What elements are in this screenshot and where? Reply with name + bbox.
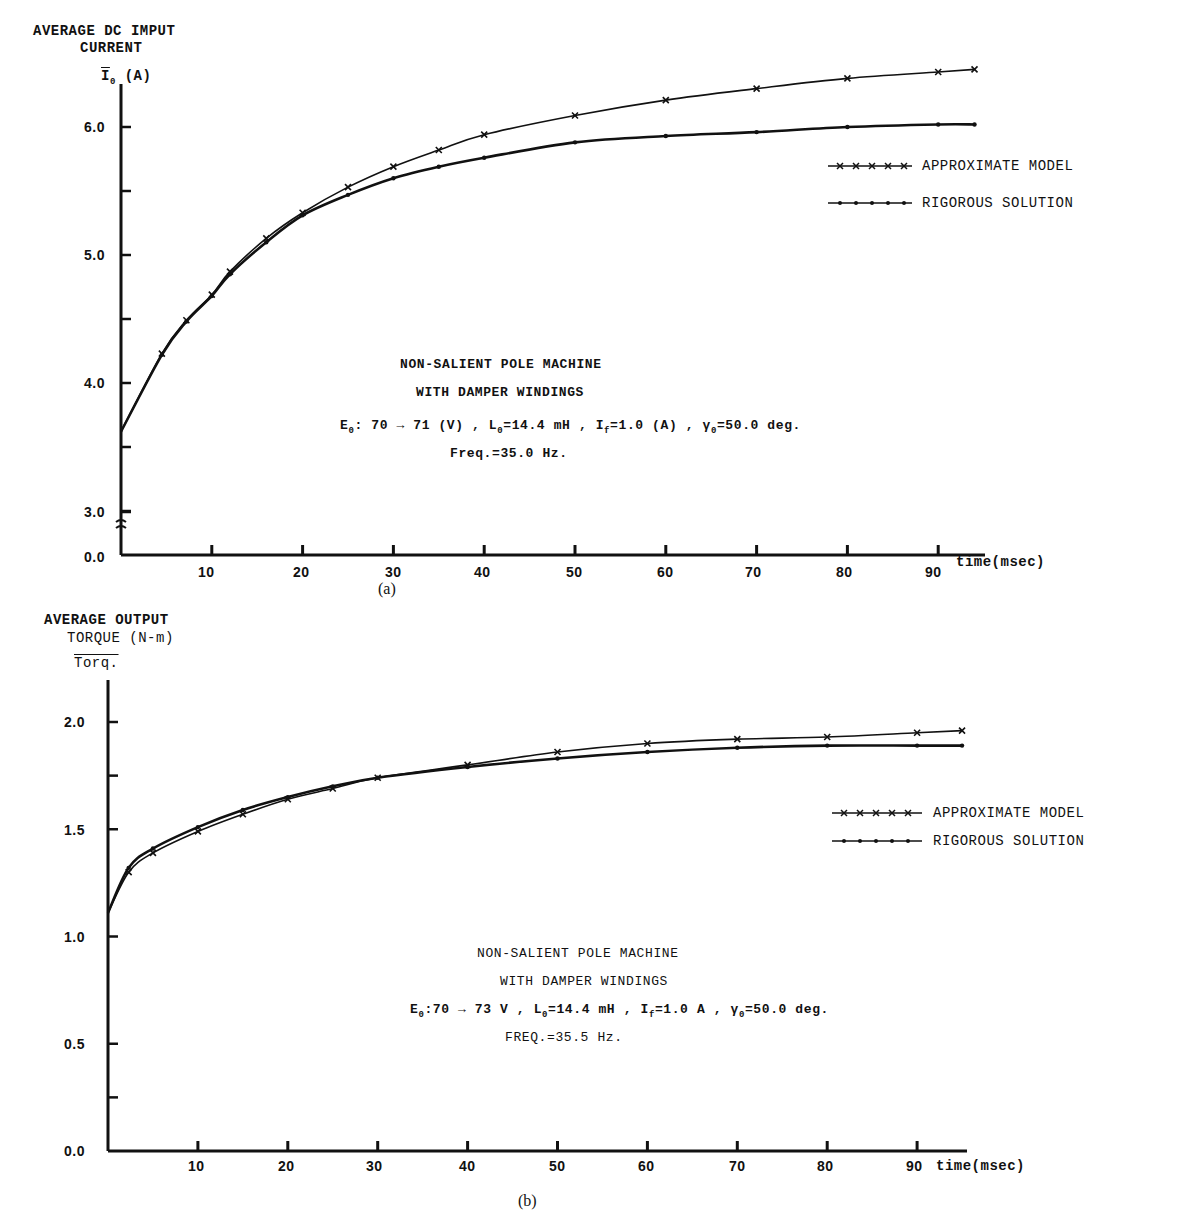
dot-marker-icon bbox=[555, 756, 559, 760]
dot-marker-icon bbox=[874, 839, 878, 843]
dot-marker-icon bbox=[331, 784, 335, 788]
dot-marker-icon bbox=[858, 839, 862, 843]
dot-marker-icon bbox=[870, 201, 874, 205]
dot-marker-icon bbox=[754, 130, 758, 134]
dot-marker-icon bbox=[573, 140, 577, 144]
dot-marker-icon bbox=[825, 743, 829, 747]
dot-marker-icon bbox=[437, 164, 441, 168]
dot-marker-icon bbox=[482, 156, 486, 160]
dot-marker-icon bbox=[890, 839, 894, 843]
dot-marker-icon bbox=[902, 201, 906, 205]
dot-marker-icon bbox=[264, 240, 268, 244]
dot-marker-icon bbox=[854, 201, 858, 205]
dot-marker-icon bbox=[906, 839, 910, 843]
series-line-approximate bbox=[108, 731, 962, 913]
dot-marker-icon bbox=[735, 746, 739, 750]
dot-marker-icon bbox=[842, 839, 846, 843]
series-line-approximate bbox=[121, 69, 975, 431]
series-line-rigorous bbox=[121, 124, 975, 431]
series-line-rigorous bbox=[108, 745, 962, 912]
dot-marker-icon bbox=[346, 193, 350, 197]
dot-marker-icon bbox=[960, 743, 964, 747]
dot-marker-icon bbox=[936, 122, 940, 126]
dot-marker-icon bbox=[196, 825, 200, 829]
dot-marker-icon bbox=[228, 272, 232, 276]
dot-marker-icon bbox=[972, 122, 976, 126]
dot-marker-icon bbox=[151, 846, 155, 850]
dot-marker-icon bbox=[160, 353, 164, 357]
dot-marker-icon bbox=[286, 795, 290, 799]
dot-marker-icon bbox=[664, 134, 668, 138]
dot-marker-icon bbox=[391, 176, 395, 180]
dot-marker-icon bbox=[465, 765, 469, 769]
dot-marker-icon bbox=[300, 213, 304, 217]
dot-marker-icon bbox=[241, 808, 245, 812]
dot-marker-icon bbox=[126, 866, 130, 870]
dot-marker-icon bbox=[886, 201, 890, 205]
dot-marker-icon bbox=[845, 125, 849, 129]
x-marker-icon bbox=[345, 184, 351, 190]
dot-marker-icon bbox=[838, 201, 842, 205]
plot-canvas bbox=[0, 0, 1193, 1230]
dot-marker-icon bbox=[184, 319, 188, 323]
dot-marker-icon bbox=[376, 776, 380, 780]
dot-marker-icon bbox=[915, 743, 919, 747]
dot-marker-icon bbox=[210, 294, 214, 298]
dot-marker-icon bbox=[645, 750, 649, 754]
